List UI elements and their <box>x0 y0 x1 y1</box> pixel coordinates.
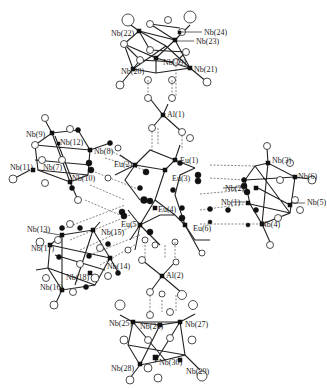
atom-label-eu6: Eu(6) <box>193 224 212 233</box>
atom-label-nb12: Nb(12) <box>60 138 83 147</box>
atom-label-nb30: Nb(30) <box>159 358 182 367</box>
atom-label-nb18: Nb(18) <box>66 273 89 282</box>
atom-label-nb16: Nb(16) <box>40 283 63 292</box>
atom-label-nb15: Nb(15) <box>101 228 124 237</box>
atom-label-eu4: Eu(4) <box>158 205 177 214</box>
atom-label-nb7: Nb(7) <box>43 163 62 172</box>
atom-label-nb28: Nb(28) <box>111 364 134 373</box>
atom-label-nb14: Nb(14) <box>107 262 130 271</box>
atom-label-eu1: Eu(1) <box>180 156 199 165</box>
structure-diagram: Al(1)Al(2)Eu(1)Eu(2)Eu(3)Eu(4)Eu(5)Eu(6)… <box>0 0 327 388</box>
atom-label-nb1: Nb(1) <box>221 198 240 207</box>
cluster-right <box>200 143 316 249</box>
atom-label-nb8: Nb(8) <box>94 147 113 156</box>
atom-label-nb29: Nb(29) <box>186 367 209 376</box>
atom-label-nb4: Nb(4) <box>261 220 280 229</box>
atom-label-eu2: Eu(2) <box>114 160 133 169</box>
atom-label-nb24: Nb(24) <box>204 28 227 37</box>
atom-label-nb22: Nb(22) <box>111 29 134 38</box>
atom-label-nb11: Nb(11) <box>10 163 33 172</box>
atom-label-nb9: Nb(9) <box>26 130 45 139</box>
atom-label-nb2: Nb(2) <box>225 184 244 193</box>
atom-label-nb3: Nb(3) <box>272 156 291 165</box>
atom-label-nb5: Nb(5) <box>307 198 326 207</box>
structure-artwork: Al(1)Al(2)Eu(1)Eu(2)Eu(3)Eu(4)Eu(5)Eu(6)… <box>0 0 327 388</box>
atom-label-eu3: Eu(3) <box>172 174 191 183</box>
atom-label-nb26: Nb(26) <box>140 322 163 331</box>
atom-label-nb27: Nb(27) <box>185 320 208 329</box>
atom-label-nb20: Nb(20) <box>121 67 144 76</box>
atom-label-nb6: Nb(6) <box>298 172 317 181</box>
atom-label-al2: Al(2) <box>166 271 184 280</box>
cluster-top <box>116 11 211 89</box>
atom-label-nb23: Nb(23) <box>196 37 219 46</box>
atom-label-al1: Al(1) <box>167 110 185 119</box>
atom-label-nb25: Nb(25) <box>109 319 132 328</box>
atom-label-nb17: Nb(17) <box>31 244 54 253</box>
atom-label-nb13: Nb(13) <box>27 225 50 234</box>
al1-bridge <box>145 62 186 150</box>
atom-label-nb21: Nb(21) <box>194 65 217 74</box>
atom-label-nb10: Nb(10) <box>72 174 95 183</box>
cluster-left-upper <box>9 115 113 204</box>
atom-label-nb19: Nb(19) <box>163 58 186 67</box>
